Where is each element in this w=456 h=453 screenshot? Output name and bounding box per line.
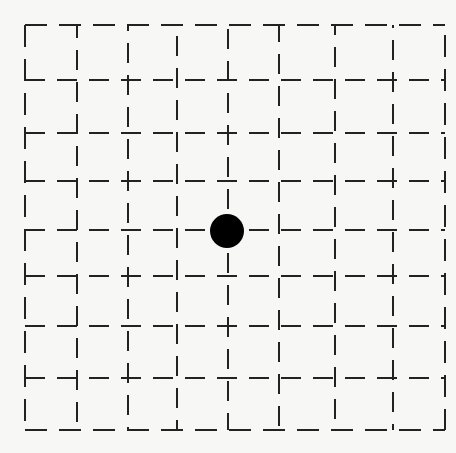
target-point	[210, 214, 244, 248]
grid-figure	[0, 0, 456, 453]
